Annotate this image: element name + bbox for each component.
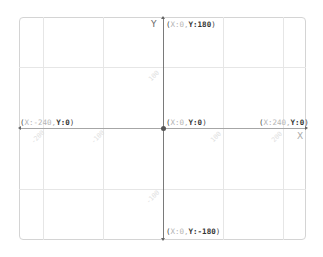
coord-y: Y:0	[189, 118, 203, 127]
paren: )	[304, 118, 309, 127]
coord-x: X:240,	[264, 118, 291, 127]
coord-label-bottom: (X:0,Y:-180)	[166, 227, 220, 236]
paren: )	[211, 20, 216, 29]
coord-x: X:0,	[171, 20, 189, 29]
coord-label-origin: (X:0,Y:0)	[166, 118, 207, 127]
coord-x: X:0,	[171, 118, 189, 127]
coord-x: X:0,	[171, 227, 189, 236]
coord-y: Y:0	[56, 118, 70, 127]
y-axis-label: Y	[151, 19, 157, 29]
paren: )	[70, 118, 75, 127]
coord-label-right: (X:240,Y:0)	[259, 118, 309, 127]
coord-label-top: (X:0,Y:180)	[166, 20, 216, 29]
coord-y: Y:-180	[189, 227, 216, 236]
y-axis-bottom-arrow-icon	[161, 238, 165, 241]
coord-x: X:-240,	[25, 118, 57, 127]
coord-label-left: (X:-240,Y:0)	[20, 118, 74, 127]
x-axis-label: X	[297, 131, 303, 141]
coord-y: Y:0	[291, 118, 305, 127]
y-axis-top-arrow-icon	[161, 16, 165, 19]
coord-y: Y:180	[189, 20, 212, 29]
paren: )	[216, 227, 221, 236]
paren: )	[202, 118, 207, 127]
